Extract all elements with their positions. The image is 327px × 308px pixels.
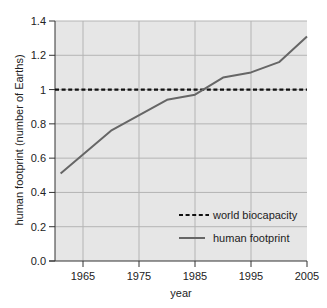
y-tick-label: 0.6 (31, 152, 46, 164)
plot-area (55, 21, 307, 261)
y-axis-ticks: 0.00.20.40.60.811.21.4 (31, 15, 55, 267)
x-tick-label: 1975 (127, 270, 151, 282)
line-chart: 0.00.20.40.60.811.21.4 19651975198519952… (0, 0, 327, 308)
y-tick-label: 0.2 (31, 221, 46, 233)
x-tick-label: 1965 (71, 270, 95, 282)
x-tick-label: 2005 (295, 270, 319, 282)
x-axis-ticks: 19651975198519952005 (71, 261, 319, 282)
x-tick-label: 1995 (239, 270, 263, 282)
y-tick-label: 0.4 (31, 186, 46, 198)
y-tick-label: 1 (40, 84, 46, 96)
y-tick-label: 0.0 (31, 255, 46, 267)
y-tick-label: 0.8 (31, 118, 46, 130)
y-axis-label: human footprint (number of Earths) (13, 54, 25, 225)
legend-label: world biocapacity (212, 209, 298, 221)
legend-label: human footprint (213, 232, 289, 244)
y-tick-label: 1.2 (31, 49, 46, 61)
x-axis-label: year (170, 287, 192, 299)
y-tick-label: 1.4 (31, 15, 46, 27)
x-tick-label: 1985 (183, 270, 207, 282)
